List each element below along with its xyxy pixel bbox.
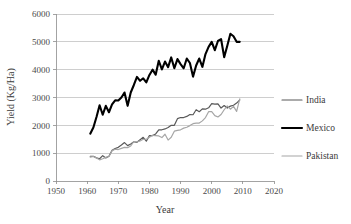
x-tick-label: 1990 — [172, 186, 191, 196]
y-tick-label: 6000 — [32, 9, 51, 19]
data-series-group — [90, 34, 239, 160]
tick-marks — [53, 14, 274, 184]
gridlines — [56, 14, 274, 153]
series-line-mexico — [90, 34, 239, 134]
x-axis-title: Year — [156, 204, 175, 215]
line-chart: 0100020003000400050006000 19501960197019… — [0, 0, 351, 224]
x-tick-label: 2020 — [265, 186, 284, 196]
chart-legend: IndiaMexicoPakistan — [282, 95, 338, 161]
y-tick-label: 1000 — [32, 148, 51, 158]
y-tick-label: 2000 — [32, 121, 51, 131]
legend-label-pakistan: Pakistan — [306, 151, 338, 161]
x-tick-label: 1970 — [109, 186, 128, 196]
legend-label-india: India — [306, 95, 326, 105]
x-tick-label: 1980 — [140, 186, 159, 196]
x-tick-label: 1950 — [47, 186, 66, 196]
x-tick-label: 2010 — [234, 186, 253, 196]
legend-label-mexico: Mexico — [306, 123, 335, 133]
y-axis-tick-labels: 0100020003000400050006000 — [32, 9, 51, 186]
y-tick-label: 0 — [46, 176, 51, 186]
y-tick-label: 4000 — [32, 65, 51, 75]
y-tick-label: 5000 — [32, 37, 51, 47]
x-tick-label: 2000 — [203, 186, 222, 196]
y-tick-label: 3000 — [32, 93, 51, 103]
x-tick-label: 1960 — [78, 186, 97, 196]
y-axis-title: Yield (Kg/Ha) — [5, 68, 17, 126]
chart-figure: 0100020003000400050006000 19501960197019… — [0, 0, 351, 224]
x-axis-tick-labels: 19501960197019801990200020102020 — [47, 186, 284, 196]
